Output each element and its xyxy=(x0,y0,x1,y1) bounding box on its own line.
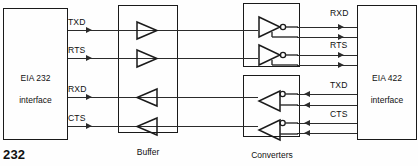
wire-left-rxd xyxy=(68,97,178,98)
eia-232-label-line1: EIA 232 xyxy=(3,73,68,84)
arrow-left-rxd xyxy=(86,94,92,100)
eia-422-label: EIA 422 interface xyxy=(357,62,417,117)
arrow-right-rts-b xyxy=(338,62,344,68)
arrow-right-cts-a xyxy=(304,120,310,126)
buffer-amp-rts-icon xyxy=(136,49,158,68)
signal-label-right-txd: TXD xyxy=(330,80,348,90)
arrow-right-txd-b xyxy=(304,102,310,108)
diagram-canvas: EIA 232 interface Buffer amplifiers Conv… xyxy=(0,0,418,166)
signal-label-right-cts: CTS xyxy=(330,109,348,119)
buffer-label-line1: Buffer xyxy=(110,147,186,158)
signal-label-right-rxd: RXD xyxy=(330,8,348,18)
signal-label-left-rxd: RXD xyxy=(68,84,86,94)
eia-422-label-line1: EIA 422 xyxy=(357,73,417,84)
converters-label-line1: Converters xyxy=(240,150,304,161)
wire-mid-txd xyxy=(178,30,258,31)
wire-left-txd xyxy=(68,30,178,31)
arrow-right-cts-b xyxy=(304,130,310,136)
signal-label-left-txd: TXD xyxy=(68,17,86,27)
wire-right-rts-a xyxy=(297,55,357,56)
wire-mid-cts xyxy=(178,126,258,127)
arrow-right-txd-a xyxy=(304,91,310,97)
arrow-left-txd xyxy=(86,27,92,33)
wire-right-rxd-b xyxy=(297,37,357,38)
wire-left-cts xyxy=(68,126,178,127)
buffer-amp-txd-icon xyxy=(136,21,158,40)
wire-mid-rxd xyxy=(178,97,258,98)
arrow-left-cts xyxy=(86,123,92,129)
arrow-left-rts xyxy=(86,55,92,61)
signal-label-left-cts: CTS xyxy=(68,113,86,123)
signal-label-left-rts: RTS xyxy=(68,45,85,55)
converters-label: Converters xyxy=(240,139,304,166)
converter-cts-icon xyxy=(258,117,298,141)
arrow-right-rts-a xyxy=(338,52,344,58)
eia-232-label-line2: interface xyxy=(3,95,68,106)
buffer-amplifier-label: Buffer amplifiers xyxy=(110,136,186,166)
wire-right-rts-b xyxy=(297,65,357,66)
figure-number: 232 xyxy=(3,147,25,162)
eia-422-label-line2: interface xyxy=(357,95,417,106)
eia-232-label: EIA 232 interface xyxy=(3,62,68,117)
arrow-right-rxd-a xyxy=(338,24,344,30)
buffer-amp-cts-icon xyxy=(136,117,158,136)
wire-mid-rts xyxy=(178,58,258,59)
converter-txd-icon xyxy=(258,88,298,112)
wire-right-rxd-a xyxy=(297,27,357,28)
converter-rxd-icon xyxy=(258,14,298,38)
converter-rts-icon xyxy=(258,42,298,66)
signal-label-right-rts: RTS xyxy=(330,40,347,50)
buffer-amp-rxd-icon xyxy=(136,88,158,107)
wire-left-rts xyxy=(68,58,178,59)
